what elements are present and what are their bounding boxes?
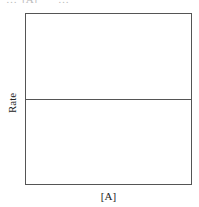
cropped-fragment-right: … [58, 0, 69, 3]
cropped-fragment-left: … [6, 0, 17, 3]
rate-line [26, 99, 191, 100]
plot-area [25, 13, 192, 185]
cropped-fragment-mid: [A] [22, 0, 37, 3]
cropped-header-text: … [A] … [0, 0, 199, 3]
y-axis-label: Rate [0, 88, 24, 118]
x-axis-label: [A] [25, 190, 192, 202]
y-axis-label-text: Rate [6, 93, 18, 113]
